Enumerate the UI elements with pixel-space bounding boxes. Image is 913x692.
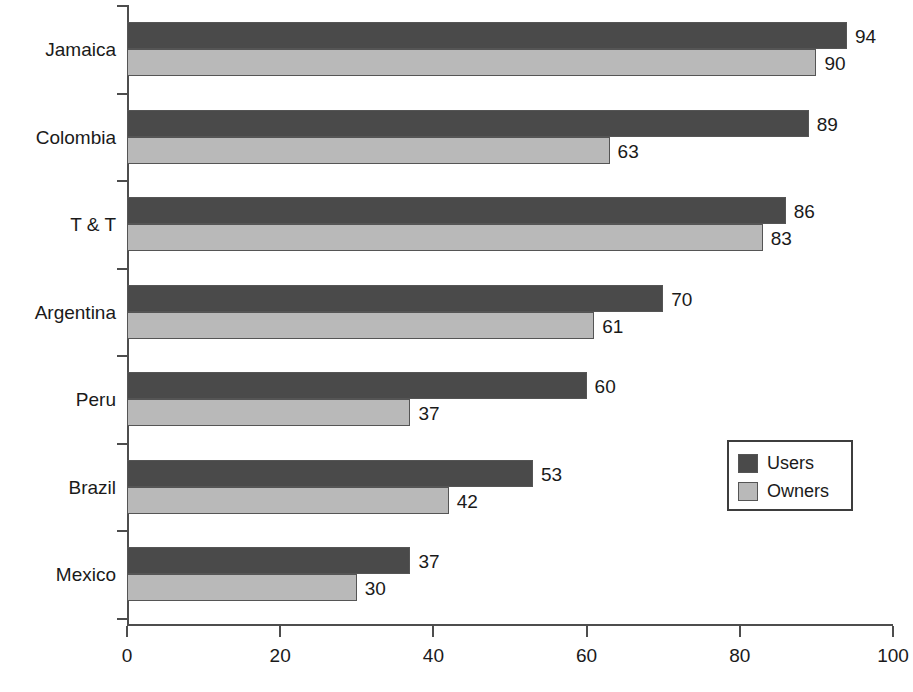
y-tick-mark <box>117 618 128 620</box>
legend-item-owners: Owners <box>738 477 851 505</box>
bar-value-label: 42 <box>457 492 478 511</box>
y-tick-mark <box>117 93 128 95</box>
legend-swatch-owners-icon <box>738 482 758 501</box>
bar-users-mexico <box>127 547 410 574</box>
bar-owners-jamaica <box>127 49 816 76</box>
x-tick-label: 100 <box>877 645 909 667</box>
x-tick-label: 0 <box>122 645 133 667</box>
y-tick-mark <box>117 180 128 182</box>
bar-value-label: 61 <box>602 317 623 336</box>
y-tick-mark <box>117 530 128 532</box>
x-tick-label: 80 <box>729 645 750 667</box>
category-label-t-t: T & T <box>0 215 116 234</box>
x-tick-mark <box>586 626 588 637</box>
bar-value-label: 53 <box>541 465 562 484</box>
bar-owners-peru <box>127 399 410 426</box>
bar-value-label: 83 <box>771 229 792 248</box>
x-tick-mark <box>279 626 281 637</box>
category-label-jamaica: Jamaica <box>0 40 116 59</box>
bar-users-jamaica <box>127 22 847 49</box>
bar-owners-mexico <box>127 574 357 601</box>
plot-area: 9490896386837061603753423730 <box>127 5 893 625</box>
category-label-argentina: Argentina <box>0 303 116 322</box>
y-tick-mark <box>117 268 128 270</box>
category-label-peru: Peru <box>0 390 116 409</box>
bar-value-label: 90 <box>824 54 845 73</box>
x-tick-label: 40 <box>423 645 444 667</box>
bar-value-label: 37 <box>418 552 439 571</box>
x-tick-mark <box>126 626 128 637</box>
x-tick-label: 60 <box>576 645 597 667</box>
bar-value-label: 89 <box>817 115 838 134</box>
bar-value-label: 60 <box>595 377 616 396</box>
x-tick-label: 20 <box>270 645 291 667</box>
legend-swatch-users-icon <box>738 454 758 473</box>
chart-legend: Users Owners <box>727 440 853 511</box>
bar-value-label: 63 <box>618 142 639 161</box>
y-tick-mark <box>117 5 128 7</box>
bar-owners-argentina <box>127 312 594 339</box>
bar-users-colombia <box>127 110 809 137</box>
legend-label-users: Users <box>767 454 814 472</box>
category-axis-labels: JamaicaColombiaT & TArgentinaPeruBrazilM… <box>0 0 116 625</box>
y-tick-mark <box>117 355 128 357</box>
x-tick-mark <box>892 626 894 637</box>
category-label-brazil: Brazil <box>0 478 116 497</box>
bar-value-label: 37 <box>418 404 439 423</box>
x-tick-mark <box>432 626 434 637</box>
legend-item-users: Users <box>738 449 851 477</box>
bar-value-label: 94 <box>855 27 876 46</box>
bar-owners-t-t <box>127 224 763 251</box>
x-tick-mark <box>739 626 741 637</box>
category-label-mexico: Mexico <box>0 565 116 584</box>
bar-owners-colombia <box>127 137 610 164</box>
bar-users-t-t <box>127 197 786 224</box>
y-tick-mark <box>117 443 128 445</box>
bar-value-label: 86 <box>794 202 815 221</box>
category-label-colombia: Colombia <box>0 128 116 147</box>
bar-owners-brazil <box>127 487 449 514</box>
bar-users-peru <box>127 372 587 399</box>
bar-chart: JamaicaColombiaT & TArgentinaPeruBrazilM… <box>0 0 913 692</box>
bar-value-label: 70 <box>671 290 692 309</box>
bar-value-label: 30 <box>365 579 386 598</box>
legend-label-owners: Owners <box>767 482 829 500</box>
bar-users-brazil <box>127 460 533 487</box>
bar-users-argentina <box>127 285 663 312</box>
